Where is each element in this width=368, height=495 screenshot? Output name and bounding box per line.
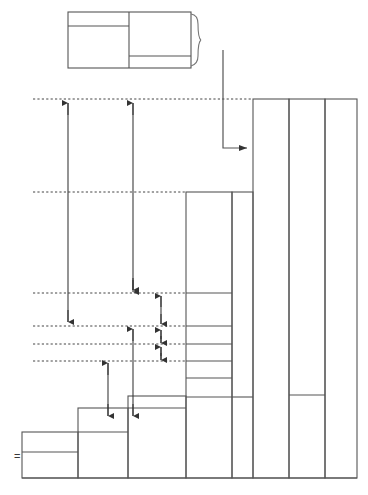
diagram-svg: [0, 0, 368, 495]
brace-upper-icon: [191, 14, 201, 40]
bar-6[interactable]: [253, 99, 289, 478]
legend-brace-group: [191, 14, 201, 66]
bar-8-body: [325, 99, 357, 478]
brace-lower-icon: [191, 40, 201, 66]
measure-arrows-group: [68, 103, 161, 416]
bar-1-body: [22, 432, 78, 478]
bar-1[interactable]: [22, 432, 78, 478]
bar-8[interactable]: [325, 99, 357, 478]
bar-5[interactable]: [232, 192, 253, 478]
bars-group: [22, 99, 357, 478]
bar-4[interactable]: [186, 192, 232, 478]
equals-marker: =: [14, 451, 20, 462]
bar-7[interactable]: [289, 99, 325, 478]
bar-7-body: [289, 99, 325, 478]
bar-4-body: [186, 192, 232, 478]
bar-2-body: [78, 408, 128, 478]
diagram-canvas: =: [0, 0, 368, 495]
legend-box-group[interactable]: [68, 12, 191, 68]
bar-6-body: [253, 99, 289, 478]
gridlines-group: [33, 99, 253, 361]
bar-2[interactable]: [78, 408, 128, 478]
bar-3[interactable]: [128, 396, 186, 478]
bar-5-body: [232, 192, 253, 478]
